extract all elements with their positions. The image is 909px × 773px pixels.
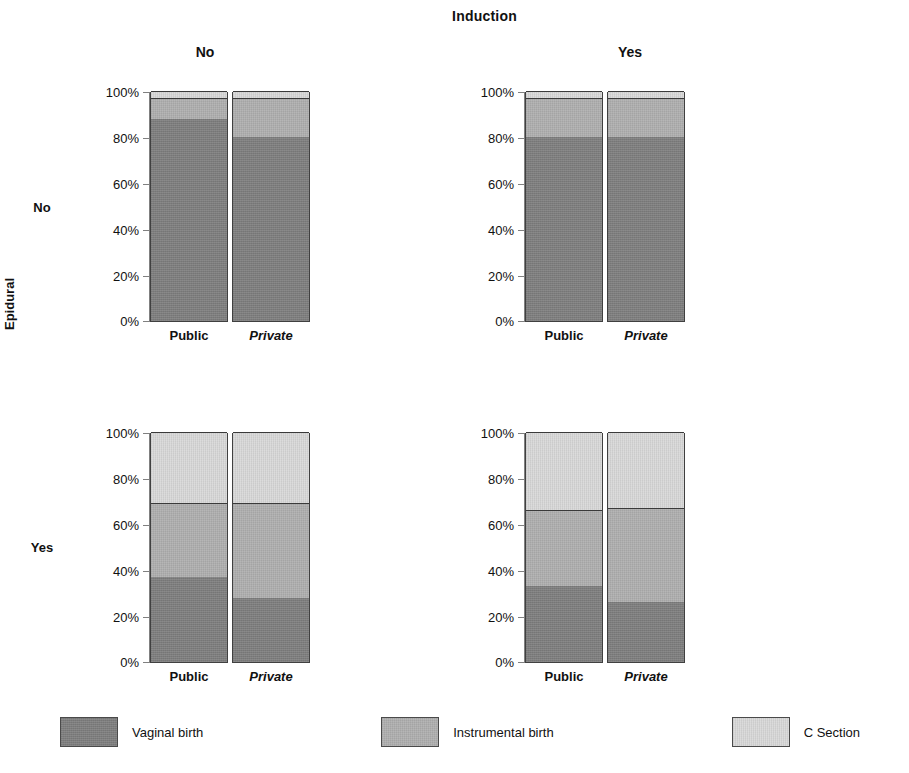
bar-private: [232, 92, 310, 322]
legend-swatch-vaginal-birth: [60, 717, 118, 747]
stacked-bar-figure: Induction No Yes Epidural No Yes 100% 80…: [0, 0, 909, 773]
y-tick-40: [143, 571, 150, 572]
x-label-public: Public: [150, 328, 228, 343]
y-tick-label-20: 20%: [113, 269, 139, 284]
y-tick-0: [143, 662, 150, 663]
legend-item-instrumental-birth: Instrumental birth: [381, 717, 553, 747]
segment-c-section: [526, 432, 602, 510]
segment-instrumental-birth: [151, 503, 227, 577]
y-tick-40: [143, 230, 150, 231]
segment-instrumental-birth: [526, 510, 602, 586]
y-tick-label-80: 80%: [488, 131, 514, 146]
segment-instrumental-birth: [526, 98, 602, 137]
y-tick-label-20: 20%: [113, 610, 139, 625]
y-tick-20: [143, 617, 150, 618]
y-tick-60: [143, 525, 150, 526]
y-tick-80: [518, 479, 525, 480]
figure-top-title: Induction: [0, 8, 909, 24]
y-tick-0: [518, 321, 525, 322]
y-tick-label-60: 60%: [113, 518, 139, 533]
y-tick-100: [518, 433, 525, 434]
segment-vaginal-birth: [151, 577, 227, 662]
y-tick-label-100: 100%: [481, 426, 514, 441]
segment-vaginal-birth: [526, 586, 602, 662]
y-tick-label-20: 20%: [488, 610, 514, 625]
segment-c-section: [608, 91, 684, 98]
y-tick-label-0: 0%: [120, 314, 139, 329]
y-tick-100: [143, 92, 150, 93]
legend-label-instrumental-birth: Instrumental birth: [453, 725, 553, 740]
bar-public: [525, 433, 603, 663]
x-label-private: Private: [607, 328, 685, 343]
y-tick-label-0: 0%: [120, 655, 139, 670]
y-tick-60: [518, 184, 525, 185]
segment-vaginal-birth: [151, 119, 227, 321]
y-axis-panel-00: 100% 80% 60% 40% 20% 0%: [138, 92, 150, 322]
y-axis-panel-01: 100% 80% 60% 40% 20% 0%: [513, 92, 525, 322]
y-tick-20: [518, 617, 525, 618]
y-tick-40: [518, 571, 525, 572]
segment-instrumental-birth: [233, 503, 309, 597]
bar-public: [525, 92, 603, 322]
bar-private: [607, 92, 685, 322]
x-label-private: Private: [232, 669, 310, 684]
panel-induction-yes-epidural-yes: 100% 80% 60% 40% 20% 0% Public Private: [525, 433, 755, 663]
panel-induction-no-epidural-yes: 100% 80% 60% 40% 20% 0% Public Private: [150, 433, 380, 663]
column-header-induction-no: No: [105, 44, 305, 60]
y-tick-label-40: 40%: [488, 223, 514, 238]
column-header-induction-yes: Yes: [530, 44, 730, 60]
y-tick-60: [518, 525, 525, 526]
y-tick-100: [518, 92, 525, 93]
y-tick-0: [518, 662, 525, 663]
y-tick-label-80: 80%: [113, 472, 139, 487]
segment-c-section: [608, 432, 684, 508]
y-tick-80: [143, 138, 150, 139]
y-tick-label-60: 60%: [113, 177, 139, 192]
segment-vaginal-birth: [526, 137, 602, 321]
y-tick-100: [143, 433, 150, 434]
y-tick-60: [143, 184, 150, 185]
segment-vaginal-birth: [233, 598, 309, 662]
panel-induction-yes-epidural-no: 100% 80% 60% 40% 20% 0% Public Private: [525, 92, 755, 322]
x-label-private: Private: [607, 669, 685, 684]
segment-instrumental-birth: [608, 508, 684, 602]
y-tick-label-40: 40%: [488, 564, 514, 579]
legend-label-vaginal-birth: Vaginal birth: [132, 725, 203, 740]
legend-item-vaginal-birth: Vaginal birth: [60, 717, 203, 747]
legend-swatch-c-section: [732, 717, 790, 747]
y-tick-label-100: 100%: [481, 85, 514, 100]
row-header-epidural-yes: Yes: [22, 540, 62, 555]
segment-c-section: [151, 432, 227, 503]
y-tick-0: [143, 321, 150, 322]
y-tick-80: [143, 479, 150, 480]
legend-swatch-instrumental-birth: [381, 717, 439, 747]
x-label-public: Public: [150, 669, 228, 684]
y-tick-label-80: 80%: [113, 131, 139, 146]
segment-c-section: [233, 91, 309, 98]
legend-item-c-section: C Section: [732, 717, 860, 747]
y-tick-80: [518, 138, 525, 139]
y-tick-label-0: 0%: [495, 314, 514, 329]
y-tick-label-40: 40%: [113, 564, 139, 579]
epidural-axis-title: Epidural: [2, 278, 17, 330]
y-axis-panel-10: 100% 80% 60% 40% 20% 0%: [138, 433, 150, 663]
bar-public: [150, 92, 228, 322]
y-tick-label-40: 40%: [113, 223, 139, 238]
legend-label-c-section: C Section: [804, 725, 860, 740]
segment-c-section: [151, 91, 227, 98]
x-label-private: Private: [232, 328, 310, 343]
segment-c-section: [526, 91, 602, 98]
row-header-epidural-no: No: [22, 200, 62, 215]
x-label-public: Public: [525, 669, 603, 684]
y-tick-20: [518, 276, 525, 277]
segment-instrumental-birth: [151, 98, 227, 119]
bar-private: [607, 433, 685, 663]
x-label-public: Public: [525, 328, 603, 343]
y-tick-label-100: 100%: [106, 85, 139, 100]
y-tick-20: [143, 276, 150, 277]
bar-public: [150, 433, 228, 663]
segment-vaginal-birth: [608, 602, 684, 662]
y-tick-label-80: 80%: [488, 472, 514, 487]
segment-vaginal-birth: [233, 137, 309, 321]
induction-title-text: Induction: [452, 8, 517, 24]
